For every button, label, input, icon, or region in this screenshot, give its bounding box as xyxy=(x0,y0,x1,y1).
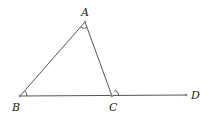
label-a: A xyxy=(80,6,89,19)
label-c: C xyxy=(109,101,118,114)
segment-ab xyxy=(20,22,85,96)
segment-bd xyxy=(20,95,186,96)
geometry-figure: A B C D xyxy=(0,0,208,115)
segment-ac xyxy=(85,22,112,96)
point-d xyxy=(185,94,188,97)
label-d: D xyxy=(190,89,200,102)
point-a xyxy=(84,21,87,24)
point-c xyxy=(111,95,114,98)
angle-a-mark xyxy=(81,27,87,29)
angle-b-mark xyxy=(25,91,27,96)
label-b: B xyxy=(11,101,20,114)
point-b xyxy=(19,95,22,98)
triangle-diagram: A B C D xyxy=(0,0,208,115)
